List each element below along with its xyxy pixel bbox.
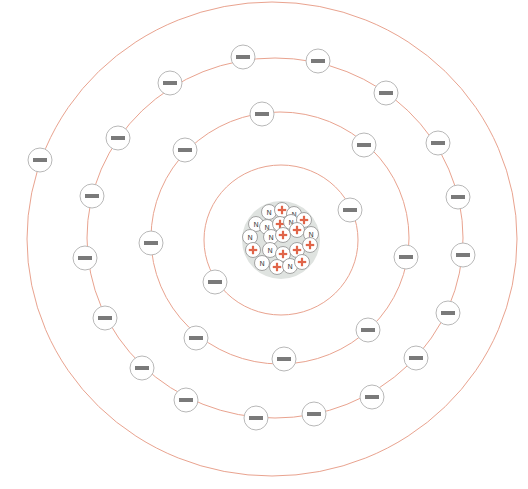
electron — [130, 356, 154, 380]
minus-icon — [144, 241, 158, 245]
neutron-label: N — [259, 260, 264, 268]
minus-icon — [409, 356, 423, 360]
minus-icon — [431, 141, 445, 145]
electron — [244, 406, 268, 430]
electron — [139, 231, 163, 255]
minus-icon — [343, 208, 357, 212]
electron — [272, 347, 296, 371]
electron — [73, 246, 97, 270]
electron — [184, 326, 208, 350]
electron — [93, 306, 117, 330]
bohr-model-canvas: NNNNNNNNNNN — [0, 0, 528, 489]
minus-icon — [98, 316, 112, 320]
neutron-label: N — [247, 234, 252, 242]
electron — [352, 133, 376, 157]
minus-icon — [178, 148, 192, 152]
minus-icon — [255, 112, 269, 116]
neutron-label: N — [253, 221, 258, 229]
neutron: N — [255, 256, 270, 271]
electron — [374, 81, 398, 105]
electron — [231, 45, 255, 69]
proton — [290, 223, 305, 238]
electron — [451, 243, 475, 267]
neutron: N — [262, 205, 277, 220]
minus-icon — [456, 253, 470, 257]
minus-icon — [277, 357, 291, 361]
minus-icon — [179, 398, 193, 402]
minus-icon — [236, 55, 250, 59]
electron — [394, 245, 418, 269]
proton — [303, 238, 318, 253]
minus-icon — [189, 336, 203, 340]
neutron-label: N — [287, 263, 292, 271]
electron — [360, 385, 384, 409]
proton — [276, 228, 291, 243]
minus-icon — [451, 195, 465, 199]
electron — [174, 388, 198, 412]
nucleus: NNNNNNNNNNN — [242, 201, 320, 279]
electron — [80, 184, 104, 208]
electron — [106, 126, 130, 150]
electron — [404, 346, 428, 370]
minus-icon — [111, 136, 125, 140]
electron — [426, 131, 450, 155]
minus-icon — [163, 81, 177, 85]
atom-diagram: NNNNNNNNNNN — [0, 0, 528, 489]
neutron-label: N — [267, 247, 272, 255]
electron — [203, 270, 227, 294]
neutron-label: N — [266, 209, 271, 217]
electron — [338, 198, 362, 222]
minus-icon — [357, 143, 371, 147]
electron — [158, 71, 182, 95]
minus-icon — [135, 366, 149, 370]
minus-icon — [441, 311, 455, 315]
proton — [246, 243, 261, 258]
minus-icon — [365, 395, 379, 399]
electron — [306, 49, 330, 73]
neutron-label: N — [268, 234, 273, 242]
minus-icon — [361, 328, 375, 332]
electron — [446, 185, 470, 209]
electron — [250, 102, 274, 126]
minus-icon — [307, 412, 321, 416]
minus-icon — [399, 255, 413, 259]
electron — [436, 301, 460, 325]
minus-icon — [33, 158, 47, 162]
proton — [295, 255, 310, 270]
minus-icon — [311, 59, 325, 63]
electron — [173, 138, 197, 162]
minus-icon — [379, 91, 393, 95]
electron — [28, 148, 52, 172]
neutron: N — [243, 230, 258, 245]
electron — [302, 402, 326, 426]
minus-icon — [78, 256, 92, 260]
minus-icon — [249, 416, 263, 420]
minus-icon — [85, 194, 99, 198]
electron — [356, 318, 380, 342]
minus-icon — [208, 280, 222, 284]
